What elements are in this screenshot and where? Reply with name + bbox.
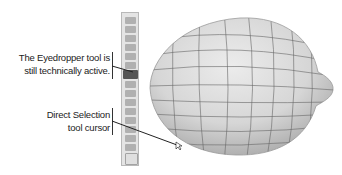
leader-line-eyedropper: [112, 66, 133, 72]
direct-selection-cursor-icon: [176, 142, 182, 150]
lemon-shape: [150, 18, 333, 155]
lemon-artwork: [0, 0, 342, 175]
